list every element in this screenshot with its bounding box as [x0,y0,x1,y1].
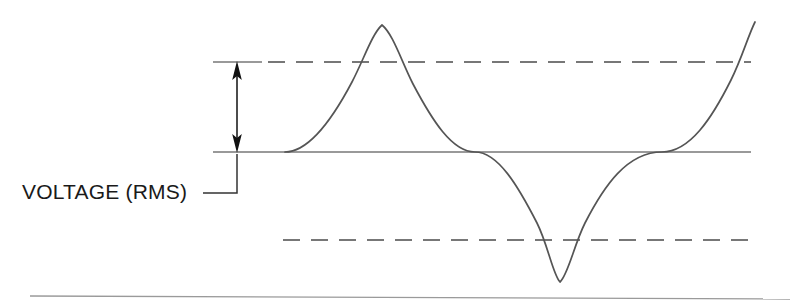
bottom-divider-rule [30,296,790,299]
rms-measure-arrow [232,61,242,153]
annotation-leader-line [203,154,237,193]
waveform-canvas [0,0,803,305]
waveform-diagram: VOLTAGE (RMS) [0,0,803,305]
voltage-rms-label: VOLTAGE (RMS) [22,180,187,204]
